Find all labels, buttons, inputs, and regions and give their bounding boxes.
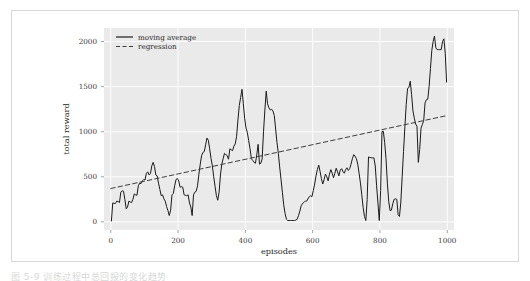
reward-chart: 02004006008001000 0500100015002000 episo… bbox=[12, 11, 518, 261]
x-tick-label: 200 bbox=[171, 236, 185, 245]
x-axis-title: episodes bbox=[261, 246, 297, 256]
page-caption: 图 5-9 训练过程中总回报的变化趋势 bbox=[11, 272, 311, 281]
y-axis-title: total reward bbox=[61, 103, 71, 154]
figure-frame: 02004006008001000 0500100015002000 episo… bbox=[11, 10, 519, 262]
y-tick-label: 1500 bbox=[79, 82, 98, 91]
plot-area-background bbox=[104, 28, 454, 230]
legend-label: moving average bbox=[138, 33, 196, 42]
screenshot-page: 02004006008001000 0500100015002000 episo… bbox=[0, 0, 530, 281]
chart-canvas: 02004006008001000 0500100015002000 episo… bbox=[12, 11, 518, 261]
y-tick-label: 0 bbox=[92, 217, 97, 226]
y-tick-label: 2000 bbox=[79, 37, 98, 46]
x-tick-label: 1000 bbox=[438, 236, 457, 245]
y-tick-label: 1000 bbox=[79, 127, 98, 136]
x-tick-label: 400 bbox=[238, 236, 252, 245]
x-tick-label: 0 bbox=[108, 236, 113, 245]
y-tick-label: 500 bbox=[83, 172, 97, 181]
x-tick-label: 800 bbox=[373, 236, 387, 245]
legend-label: regression bbox=[138, 42, 177, 51]
caption-text: 图 5-9 训练过程中总回报的变化趋势 bbox=[11, 272, 311, 281]
x-tick-label: 600 bbox=[306, 236, 320, 245]
